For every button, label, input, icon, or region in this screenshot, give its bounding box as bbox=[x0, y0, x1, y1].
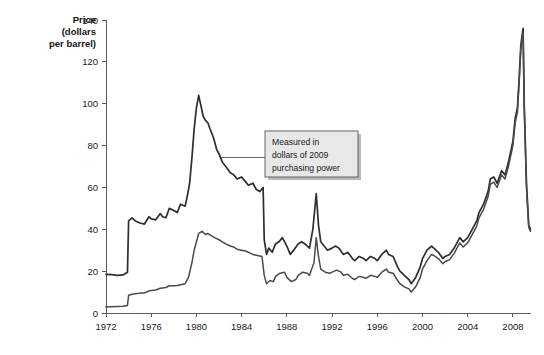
y-tick-label: 140 bbox=[82, 15, 98, 26]
x-tick-label: 1984 bbox=[231, 321, 252, 332]
x-tick-label: 2008 bbox=[502, 321, 523, 332]
annotation-text-line: Measured in bbox=[272, 137, 320, 147]
y-tick-label: 0 bbox=[93, 308, 98, 319]
y-axis-title-line: (dollars bbox=[62, 26, 96, 37]
annotation-text-line: purchasing power bbox=[272, 163, 340, 173]
y-tick-label: 80 bbox=[87, 140, 98, 151]
oil-price-chart: Price(dollarsper barrel) 020406080100120… bbox=[0, 0, 544, 355]
y-tick-label: 100 bbox=[82, 98, 98, 109]
x-tick-label: 1980 bbox=[186, 321, 207, 332]
x-tick-label: 2004 bbox=[457, 321, 478, 332]
x-tick-label: 1988 bbox=[276, 321, 297, 332]
x-tick-label: 1992 bbox=[321, 321, 342, 332]
y-tick-label: 120 bbox=[82, 56, 98, 67]
x-tick-label: 1996 bbox=[367, 321, 388, 332]
x-tick-label: 1972 bbox=[95, 321, 116, 332]
x-tick-label: 1976 bbox=[141, 321, 162, 332]
y-tick-label: 40 bbox=[87, 224, 98, 235]
annotation-text-line: dollars of 2009 bbox=[272, 150, 329, 160]
y-tick-label: 20 bbox=[87, 266, 98, 277]
y-tick-label: 60 bbox=[87, 182, 98, 193]
y-axis-title-line: per barrel) bbox=[49, 38, 96, 49]
x-tick-label: 2000 bbox=[412, 321, 433, 332]
